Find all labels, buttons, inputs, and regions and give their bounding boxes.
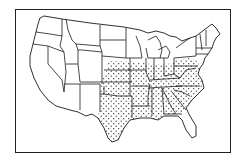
us-map — [0, 0, 244, 165]
